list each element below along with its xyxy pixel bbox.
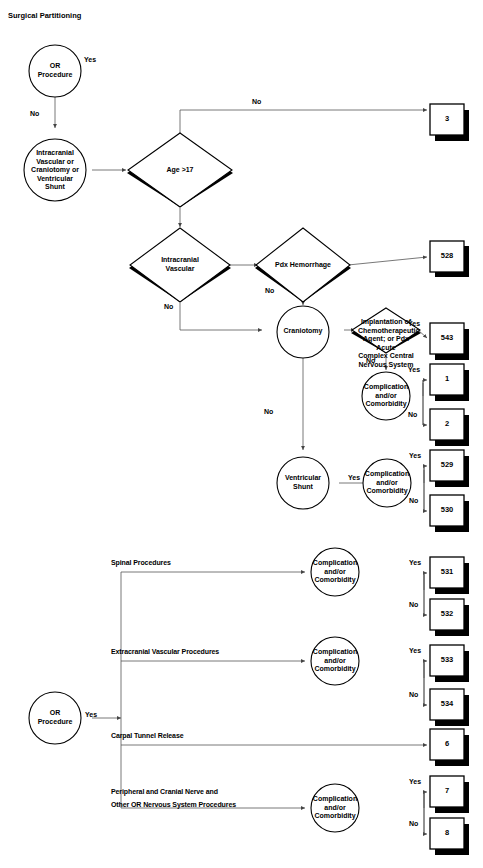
node-label-ventricular-shunt: VentricularShunt bbox=[275, 474, 331, 491]
terminal-label-528: 528 bbox=[430, 251, 464, 260]
edge-label-c4-yes: Yes bbox=[409, 647, 421, 654]
terminal-label-543: 543 bbox=[430, 333, 464, 342]
edge-label-or-top-no: No bbox=[30, 110, 39, 117]
node-label-pdx-hemorrhage: Pdx Hemorrhage bbox=[260, 261, 346, 270]
edge-label-c3-no: No bbox=[409, 601, 418, 608]
edge-label-c2-no: No bbox=[409, 497, 418, 504]
edge-label-c2-yes: Yes bbox=[409, 452, 421, 459]
node-label-complication-2: Complicationand/orComorbidity bbox=[355, 470, 419, 496]
terminal-label-531: 531 bbox=[430, 567, 464, 576]
node-label-intracranial-vascular: IntracranialVascular bbox=[145, 256, 215, 273]
terminal-label-3: 3 bbox=[430, 114, 464, 123]
branch-label-peripheral-nerve-line2: Other OR Nervous System Procedures bbox=[111, 800, 236, 809]
terminal-label-533: 533 bbox=[430, 655, 464, 664]
terminal-label-1: 1 bbox=[430, 374, 464, 383]
edge-label-c4-no: No bbox=[409, 691, 418, 698]
edge-label-or-top-yes: Yes bbox=[84, 56, 96, 63]
terminal-label-6: 6 bbox=[430, 739, 464, 748]
terminal-label-529: 529 bbox=[430, 460, 464, 469]
node-label-craniotomy: Craniotomy bbox=[272, 327, 334, 336]
branch-label-spinal-procedures: Spinal Procedures bbox=[111, 558, 171, 567]
edge-label-age-no: No bbox=[252, 98, 261, 105]
edge-label-vs-yes: Yes bbox=[348, 474, 360, 481]
node-craniotomy[interactable] bbox=[277, 306, 338, 366]
node-label-complication-1: Complicationand/orComorbidity bbox=[354, 383, 418, 409]
node-label-age-gt-17: Age >17 bbox=[145, 166, 215, 175]
edge-trunks bbox=[121, 383, 424, 808]
node-label-complication-3: Complicationand/orComorbidity bbox=[303, 559, 367, 585]
node-label-or-procedure-bottom: ORProcedure bbox=[25, 709, 85, 726]
edge-label-iv-no: No bbox=[164, 303, 173, 310]
node-label-intracranial-group: IntracranialVascular orCraniotomy orVent… bbox=[17, 149, 93, 192]
edge-label-or-bottom-yes: Yes bbox=[85, 711, 97, 718]
edge-label-pdx-no: No bbox=[265, 287, 274, 294]
edge-label-implantation-yes: Yes bbox=[408, 320, 420, 327]
branch-label-carpal-tunnel: Carpal Tunnel Release bbox=[111, 731, 183, 740]
edge-label-c3-yes: Yes bbox=[409, 559, 421, 566]
edge-label-c5-no: No bbox=[409, 820, 418, 827]
terminal-label-8: 8 bbox=[430, 828, 464, 837]
node-label-or-procedure-top: ORProcedure bbox=[25, 62, 85, 79]
edge-splits bbox=[423, 380, 424, 834]
terminal-label-7: 7 bbox=[430, 786, 464, 795]
edge-label-c1-yes: Yes bbox=[408, 366, 420, 373]
branch-label-extracranial-vascular: Extracranial Vascular Procedures bbox=[111, 647, 219, 656]
edge-label-craniotomy-no: No bbox=[264, 408, 273, 415]
terminal-label-534: 534 bbox=[430, 699, 464, 708]
terminal-label-532: 532 bbox=[430, 609, 464, 618]
edge-label-implantation-no: No bbox=[366, 357, 375, 364]
flowchart-canvas bbox=[0, 0, 483, 868]
edge-label-c5-yes: Yes bbox=[409, 778, 421, 785]
terminal-label-2: 2 bbox=[430, 419, 464, 428]
branch-label-peripheral-nerve-line1: Peripheral and Cranial Nerve and bbox=[111, 787, 218, 796]
node-label-complication-5: Complicationand/orComorbidity bbox=[303, 795, 367, 821]
terminal-label-530: 530 bbox=[430, 505, 464, 514]
node-label-complication-4: Complicationand/orComorbidity bbox=[303, 648, 367, 674]
edge-label-c1-no: No bbox=[408, 411, 417, 418]
